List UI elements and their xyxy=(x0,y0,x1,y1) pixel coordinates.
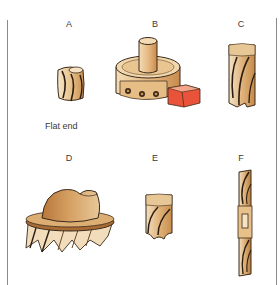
double-end-mill-icon xyxy=(237,170,253,276)
shell-face-mill-icon xyxy=(22,184,118,256)
panel-label-e: E xyxy=(145,153,165,163)
caption-flat-end: Flat end xyxy=(45,121,78,131)
panel-label-d: D xyxy=(59,153,79,163)
left-border-rule xyxy=(7,20,8,285)
helical-end-mill-icon xyxy=(227,43,257,108)
ball-end-mill-icon xyxy=(144,193,174,241)
flat-end-mill-icon xyxy=(54,62,88,104)
panel-label-a: A xyxy=(59,19,79,29)
indexable-face-mill-icon xyxy=(112,33,204,119)
panel-label-b: B xyxy=(145,19,165,29)
right-border-rule xyxy=(276,18,277,285)
panel-label-c: C xyxy=(231,19,251,29)
panel-label-f: F xyxy=(231,153,251,163)
